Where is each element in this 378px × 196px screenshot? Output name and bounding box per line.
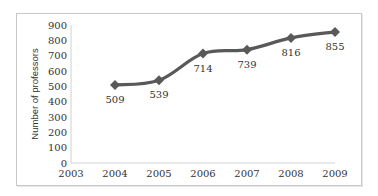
diamond-marker [330, 27, 340, 37]
diamond-marker [242, 45, 252, 55]
diamond-marker [198, 49, 208, 59]
y-tick-label: 300 [48, 112, 67, 123]
y-tick-label: 400 [48, 96, 67, 107]
y-axis-label: Number of professors [29, 48, 40, 140]
series-line [115, 32, 335, 85]
y-axis-ticks: 0100200300400500600700800900 [48, 20, 67, 169]
data-label: 816 [281, 47, 300, 58]
data-label: 855 [325, 41, 344, 52]
diamond-marker [154, 75, 164, 85]
x-tick-label: 2007 [234, 168, 259, 179]
data-label: 739 [237, 59, 256, 70]
x-tick-label: 2006 [190, 168, 215, 179]
data-label: 539 [149, 89, 168, 100]
line-chart: 0100200300400500600700800900 20032004200… [0, 0, 378, 196]
diamond-marker [110, 80, 120, 90]
x-axis-ticks: 2003200420052006200720082009 [58, 168, 347, 179]
diamond-marker [286, 33, 296, 43]
x-tick-label: 2003 [58, 168, 83, 179]
y-tick-label: 600 [48, 66, 67, 77]
y-tick-label: 700 [48, 50, 67, 61]
data-label: 509 [105, 94, 124, 105]
y-tick-label: 900 [48, 20, 67, 31]
x-tick-label: 2008 [278, 168, 303, 179]
y-tick-label: 800 [48, 35, 67, 46]
y-tick-label: 100 [48, 142, 67, 153]
data-label: 714 [193, 63, 212, 74]
y-tick-label: 0 [61, 158, 67, 169]
data-series [110, 27, 340, 90]
x-tick-label: 2004 [102, 168, 127, 179]
x-tick-label: 2009 [322, 168, 347, 179]
x-tick-label: 2005 [146, 168, 171, 179]
y-tick-label: 500 [48, 81, 67, 92]
y-tick-label: 200 [48, 127, 67, 138]
